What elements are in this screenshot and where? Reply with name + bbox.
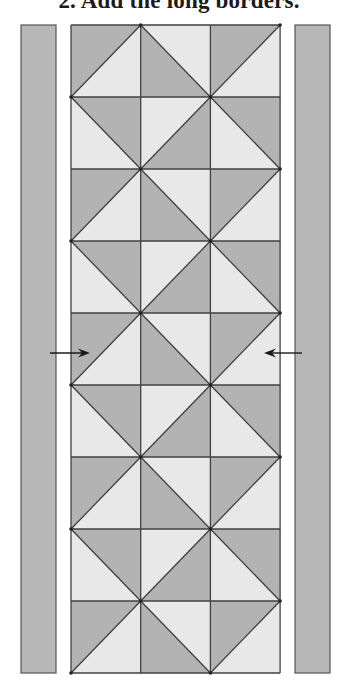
seam-point — [209, 239, 213, 243]
seam-point — [69, 671, 73, 675]
seam-point — [278, 455, 282, 459]
diagram-canvas: 2. Add the long borders. — [0, 0, 350, 683]
half-square-triangle-block — [71, 97, 141, 169]
half-square-triangle-block — [210, 97, 280, 169]
seam-point — [209, 527, 213, 531]
seam-point — [69, 527, 73, 531]
half-square-triangle-block — [71, 385, 141, 457]
half-square-triangle-block — [210, 241, 280, 313]
seam-point — [139, 311, 143, 315]
half-square-triangle-block — [210, 385, 280, 457]
half-square-triangle-block — [141, 601, 211, 673]
half-square-triangle-block — [210, 169, 280, 241]
half-square-triangle-block — [141, 313, 211, 385]
half-square-triangle-block — [210, 601, 280, 673]
seam-point — [209, 383, 213, 387]
seam-point — [278, 23, 282, 27]
seam-point — [209, 671, 213, 675]
quilt-assembly-diagram — [0, 0, 350, 683]
half-square-triangle-block — [71, 25, 141, 97]
seam-point — [69, 239, 73, 243]
half-square-triangle-block — [210, 529, 280, 601]
seam-point — [209, 95, 213, 99]
half-square-triangle-block — [71, 529, 141, 601]
half-square-triangle-block — [71, 457, 141, 529]
half-square-triangle-block — [210, 313, 280, 385]
half-square-triangle-block — [71, 169, 141, 241]
half-square-triangle-block — [141, 241, 211, 313]
seam-point — [69, 95, 73, 99]
half-square-triangle-block — [210, 457, 280, 529]
half-square-triangle-block — [141, 25, 211, 97]
seam-point — [139, 23, 143, 27]
half-square-triangle-block — [210, 25, 280, 97]
half-square-triangle-block — [141, 97, 211, 169]
right-border-strip — [295, 25, 330, 673]
seam-point — [278, 599, 282, 603]
half-square-triangle-block — [71, 601, 141, 673]
half-square-triangle-block — [71, 313, 141, 385]
half-square-triangle-block — [141, 169, 211, 241]
seam-point — [278, 167, 282, 171]
left-border-strip — [21, 25, 56, 673]
quilt-center-grid — [69, 23, 282, 675]
half-square-triangle-block — [141, 529, 211, 601]
seam-point — [139, 599, 143, 603]
seam-point — [139, 167, 143, 171]
half-square-triangle-block — [71, 241, 141, 313]
seam-point — [139, 455, 143, 459]
seam-point — [69, 383, 73, 387]
half-square-triangle-block — [141, 385, 211, 457]
seam-point — [278, 311, 282, 315]
half-square-triangle-block — [141, 457, 211, 529]
